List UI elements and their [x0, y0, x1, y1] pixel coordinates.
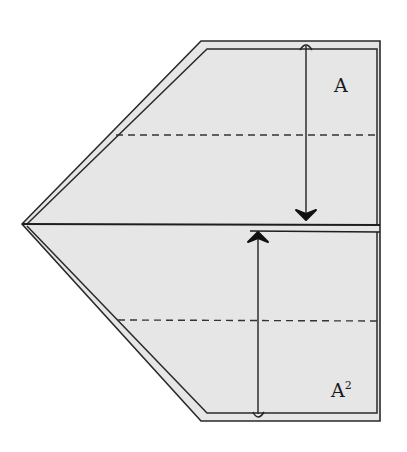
label-top-base: A: [334, 74, 348, 96]
label-bottom-flap: A2: [331, 379, 352, 401]
label-bottom-sup: 2: [345, 379, 352, 392]
label-bottom-base: A: [331, 379, 345, 401]
label-top-flap: A: [334, 74, 348, 96]
center-line-lower: [250, 231, 380, 232]
center-line-upper: [22, 224, 380, 225]
